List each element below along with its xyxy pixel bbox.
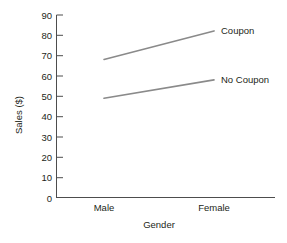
series-line-coupon xyxy=(104,31,214,60)
x-axis-title: Gender xyxy=(143,219,175,230)
y-tick-label-20: 20 xyxy=(41,152,52,163)
y-tick-label-70: 70 xyxy=(41,50,52,61)
y-tick-label-50: 50 xyxy=(41,91,52,102)
series-label-no-coupon: No Coupon xyxy=(221,74,269,85)
y-tick-label-90: 90 xyxy=(41,10,52,21)
y-tick-label-10: 10 xyxy=(41,172,52,183)
y-tick-label-30: 30 xyxy=(41,132,52,143)
series-line-no-coupon xyxy=(104,80,214,98)
y-tick-label-0: 0 xyxy=(47,193,52,204)
chart-canvas: 90 80 70 60 50 40 30 20 10 0 Sales ($) C… xyxy=(0,0,287,243)
y-tick-label-80: 80 xyxy=(41,30,52,41)
series-lines xyxy=(104,31,214,98)
x-tick-label-male: Male xyxy=(94,202,115,213)
y-axis-ticks xyxy=(57,15,64,178)
x-tick-label-female: Female xyxy=(198,202,230,213)
y-tick-label-40: 40 xyxy=(41,111,52,122)
interaction-plot: 90 80 70 60 50 40 30 20 10 0 Sales ($) C… xyxy=(0,0,287,243)
y-axis-tick-labels: 90 80 70 60 50 40 30 20 10 0 xyxy=(41,10,52,204)
y-tick-label-60: 60 xyxy=(41,71,52,82)
y-axis-title: Sales ($) xyxy=(13,96,24,134)
series-label-coupon: Coupon xyxy=(221,25,254,36)
